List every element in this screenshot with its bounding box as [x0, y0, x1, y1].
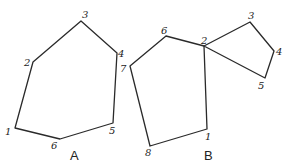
vertex-label-a-1: 1	[5, 126, 11, 137]
vertex-label-b-3: 3	[248, 10, 254, 21]
vertex-label-b-6: 6	[161, 25, 168, 36]
vertex-label-a-6: 6	[51, 140, 58, 151]
vertex-label-b-2: 2	[200, 35, 207, 46]
vertex-label-b-5: 5	[258, 80, 264, 91]
vertex-label-b-4: 4	[275, 46, 282, 57]
vertex-label-b-7: 7	[120, 63, 127, 74]
vertex-label-a-2: 2	[23, 57, 30, 68]
polygon-a-1	[15, 21, 117, 139]
vertex-label-b-1: 1	[205, 131, 211, 142]
vertex-label-a-5: 5	[109, 125, 115, 136]
polygon-diagram: 123456A 12345678B	[0, 0, 291, 168]
vertex-label-a-3: 3	[82, 9, 88, 20]
polygon-b-2	[204, 22, 274, 78]
figure-b: 12345678B	[120, 10, 282, 163]
figure-a: 123456A	[5, 9, 124, 163]
polygon-b-1	[130, 36, 207, 146]
figure-label-a: A	[70, 148, 79, 163]
vertex-label-b-8: 8	[145, 147, 151, 158]
figure-label-b: B	[204, 148, 213, 163]
vertex-label-a-4: 4	[117, 48, 124, 59]
